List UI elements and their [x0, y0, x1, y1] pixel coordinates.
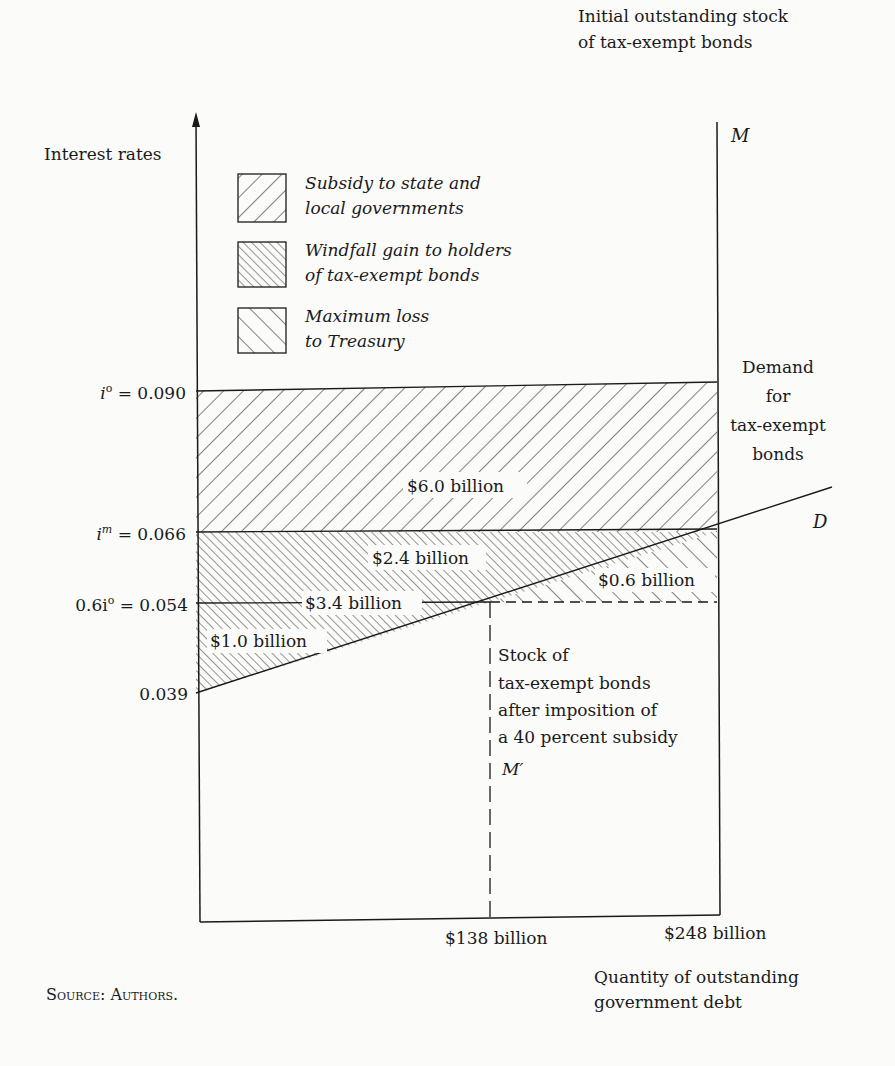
svg-text:after imposition of: after imposition of	[498, 700, 659, 720]
svg-text:a 40 percent subsidy: a 40 percent subsidy	[498, 727, 678, 747]
svg-text:Stock of: Stock of	[498, 645, 570, 665]
y-tick-labels: io = 0.090 im = 0.066 0.6io = 0.054 0.03…	[75, 382, 188, 704]
label-6-0-billion: $6.0 billion	[407, 476, 504, 496]
legend-swatch-subsidy	[238, 174, 286, 222]
y-tick-06i0: 0.6io = 0.054	[75, 594, 188, 615]
y-tick-im: im = 0.066	[96, 523, 186, 544]
y-axis-arrow-icon	[192, 112, 200, 127]
x-axis-label-line2: government debt	[594, 992, 742, 1012]
diagram-canvas: Initial outstanding stock of tax-exempt …	[0, 0, 895, 1066]
y-tick-0039: 0.039	[139, 684, 188, 704]
legend-windfall-line2: of tax-exempt bonds	[305, 265, 480, 285]
svg-text:tax-exempt bonds: tax-exempt bonds	[498, 673, 651, 693]
legend-swatch-treasury	[238, 308, 286, 353]
top-label-line2: of tax-exempt bonds	[578, 32, 753, 52]
demand-label: Demand for tax-exempt bonds	[730, 357, 826, 464]
source-note: Source: Authors.	[46, 985, 178, 1004]
legend-subsidy-line2: local governments	[305, 198, 464, 218]
svg-text:bonds: bonds	[752, 444, 804, 464]
x-axis	[200, 915, 720, 922]
x-tick-138: $138 billion	[445, 928, 548, 948]
m-prime-label: M′	[501, 759, 523, 779]
d-label: D	[812, 511, 828, 532]
legend-windfall-line1: Windfall gain to holders	[305, 240, 512, 260]
y-axis-label: Interest rates	[44, 144, 162, 164]
top-label-line1: Initial outstanding stock	[578, 6, 789, 26]
legend-treasury-line1: Maximum loss	[304, 306, 430, 326]
legend-subsidy-line1: Subsidy to state and	[305, 173, 481, 193]
label-1-0-billion: $1.0 billion	[210, 631, 307, 651]
m-line	[717, 122, 720, 915]
m-label: M	[730, 125, 750, 146]
label-3-4-billion: $3.4 billion	[305, 593, 402, 613]
stock-note: Stock of tax-exempt bonds after impositi…	[498, 645, 678, 747]
legend: Subsidy to state and local governments W…	[238, 173, 512, 353]
svg-text:Demand: Demand	[742, 357, 814, 377]
label-0-6-billion: $0.6 billion	[598, 570, 695, 590]
label-2-4-billion: $2.4 billion	[372, 548, 469, 568]
y-tick-i0: io = 0.090	[100, 382, 186, 403]
region-subsidy	[196, 382, 717, 532]
legend-swatch-windfall	[238, 242, 286, 287]
svg-text:tax-exempt: tax-exempt	[730, 415, 826, 435]
x-tick-248: $248 billion	[664, 923, 767, 943]
legend-treasury-line2: to Treasury	[305, 331, 405, 351]
x-axis-label-line1: Quantity of outstanding	[594, 967, 799, 987]
svg-text:for: for	[766, 386, 792, 406]
